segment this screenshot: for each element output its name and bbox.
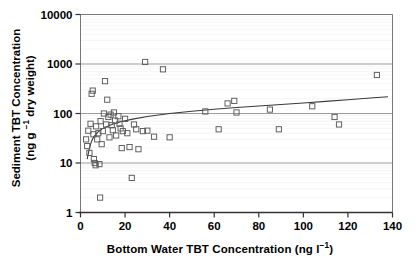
y-tick-label: 1 [66,207,72,219]
x-tick-label: 80 [252,220,265,232]
x-tick-label: 0 [77,220,83,232]
x-tick-label: 40 [163,220,176,232]
y-tick-label: 1000 [47,58,73,70]
x-tick-label: 140 [383,220,402,232]
y-tick-label: 100 [53,108,72,120]
x-tick-label: 20 [119,220,132,232]
chart-figure: Sediment TBT Concentration (ng g −1 dry … [0,0,416,269]
x-tick-label: 60 [208,220,221,232]
x-tick-label: 100 [294,220,313,232]
y-axis-ticks [76,15,81,213]
x-axis-ticks [81,213,393,218]
x-tick-label: 120 [338,220,357,232]
y-tick-label: 10 [60,157,73,169]
y-tick-label: 10000 [41,9,73,21]
